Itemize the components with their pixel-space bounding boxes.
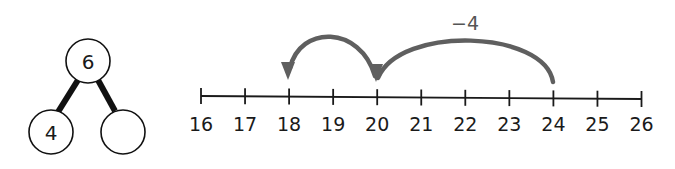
jump-arc-24-to-20: [378, 41, 553, 82]
tick-label-16: 16: [189, 113, 213, 135]
whole-value: 6: [82, 50, 95, 74]
number-line: 1617181920212223242526: [189, 88, 654, 135]
tick-label-26: 26: [629, 113, 653, 135]
jump-arc-20-to-18: [290, 37, 375, 76]
part-whole-model: 6 4: [29, 39, 145, 154]
jump-label: −4: [451, 12, 479, 34]
tick-labels: 1617181920212223242526: [189, 113, 654, 135]
diagram-canvas: 6 4 1617181920212223242526 −4: [0, 0, 675, 169]
tick-label-22: 22: [453, 113, 477, 135]
tick-label-20: 20: [365, 113, 389, 135]
connector-left: [58, 80, 78, 112]
arrowhead-18-icon: [281, 62, 295, 80]
tick-marks: [201, 88, 642, 107]
tick-label-24: 24: [541, 113, 565, 135]
tick-label-23: 23: [497, 113, 521, 135]
connector-right: [98, 80, 115, 111]
tick-label-17: 17: [233, 113, 257, 135]
tick-label-21: 21: [409, 113, 433, 135]
part-value-left: 4: [45, 121, 58, 145]
part-circle-right[interactable]: [101, 110, 145, 154]
jump-arrows: −4: [281, 12, 553, 82]
tick-label-18: 18: [277, 113, 301, 135]
tick-label-25: 25: [585, 113, 609, 135]
tick-label-19: 19: [321, 113, 345, 135]
